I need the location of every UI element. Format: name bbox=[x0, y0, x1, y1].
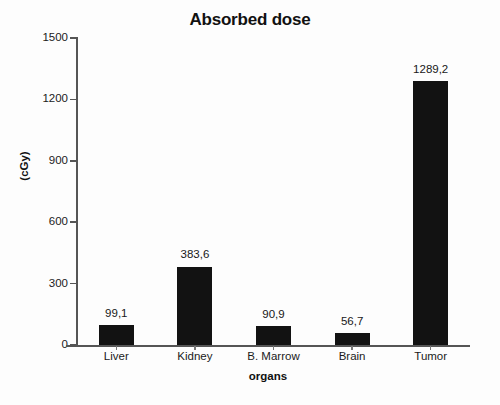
y-axis-tick-label: 1500 bbox=[28, 32, 68, 44]
y-axis-tick-label: 600 bbox=[28, 216, 68, 228]
bar-chart-figure: Absorbed dose (cGy) 030060090012001500 o… bbox=[0, 0, 500, 405]
x-axis-line bbox=[66, 345, 470, 347]
y-axis-tick-label: 300 bbox=[28, 278, 68, 290]
x-axis-category-label: Tumor bbox=[376, 351, 486, 363]
bar-liver bbox=[99, 325, 134, 345]
y-axis-tick-group: 030060090012001500 bbox=[0, 0, 68, 405]
y-axis-tick-label: 1200 bbox=[28, 93, 68, 105]
bar-value-label: 1289,2 bbox=[391, 64, 471, 76]
bar-value-label: 383,6 bbox=[155, 249, 235, 261]
bar-b-marrow bbox=[256, 326, 291, 345]
plot-area bbox=[77, 38, 470, 345]
bar-value-label: 99,1 bbox=[76, 308, 156, 320]
y-axis-tick-label: 900 bbox=[28, 155, 68, 167]
bar-tumor bbox=[413, 81, 448, 345]
y-axis-tick-label: 0 bbox=[28, 339, 68, 351]
bar-value-label: 56,7 bbox=[312, 316, 392, 328]
chart-title: Absorbed dose bbox=[0, 10, 500, 30]
bar-kidney bbox=[177, 267, 212, 346]
bar-value-label: 90,9 bbox=[234, 309, 314, 321]
x-axis-title: organs bbox=[66, 370, 470, 382]
bar-brain bbox=[335, 333, 370, 345]
